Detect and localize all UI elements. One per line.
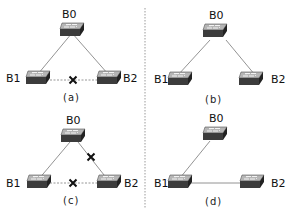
switch-icon-b0 (203, 24, 227, 37)
label-b0: B0 (209, 112, 224, 125)
label-b1: B1 (154, 177, 169, 190)
switch-icon-b2 (97, 175, 121, 188)
switch-icon-b2 (97, 71, 121, 84)
switch-icon-b1 (27, 175, 51, 188)
label-b2: B2 (271, 177, 286, 190)
panel-a: B0 B1 B2 (a) (6, 8, 138, 103)
switch-icon-b0 (60, 23, 84, 36)
panel-b: B0 B1 B2 (b) (154, 9, 286, 105)
link-b0-b1 (38, 142, 70, 180)
panel-d: B0 B1 B2 (d) (154, 112, 286, 207)
label-b0: B0 (62, 8, 77, 21)
link-b0-b1 (38, 33, 72, 74)
label-b2: B2 (123, 72, 138, 85)
caption-d: (d) (205, 196, 222, 207)
label-b0: B0 (66, 114, 81, 127)
link-b0-b2 (72, 33, 108, 74)
switch-icon-b1 (168, 72, 192, 85)
caption-c: (c) (63, 195, 79, 206)
label-b1: B1 (6, 177, 21, 190)
link-b0-b1 (178, 40, 210, 75)
label-b2: B2 (124, 177, 139, 190)
switch-icon-b2 (240, 175, 264, 188)
link-b0-b1 (180, 141, 210, 178)
label-b1: B1 (6, 72, 21, 85)
label-b2: B2 (271, 73, 286, 86)
panel-c: B0 B1 B2 (c) (6, 114, 139, 206)
caption-a: (a) (63, 92, 80, 103)
switch-icon-b0 (61, 129, 85, 142)
switch-icon-b1 (168, 175, 192, 188)
link-b0-b2 (226, 40, 255, 75)
switch-icon-b1 (26, 71, 50, 84)
diagram-canvas: B0 B1 B2 (a) B0 B1 B2 (b) B0 B1 B2 (c) (0, 0, 294, 218)
switch-icon-b0 (203, 127, 227, 140)
caption-b: (b) (205, 94, 222, 105)
label-b1: B1 (154, 73, 169, 86)
switch-icon-b2 (239, 72, 263, 85)
label-b0: B0 (209, 9, 224, 22)
failed-cross-icon (88, 154, 95, 161)
link-b0-b2-failed (78, 142, 108, 180)
